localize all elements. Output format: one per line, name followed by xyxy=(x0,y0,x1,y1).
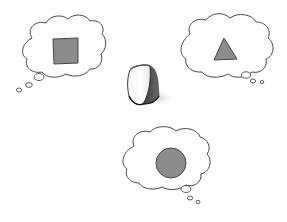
thought-dot-small xyxy=(196,200,200,203)
thought-dot-large xyxy=(181,186,191,193)
square-shape xyxy=(53,38,78,64)
circle-shape xyxy=(156,148,186,178)
thought-dot-medium xyxy=(26,83,33,88)
thought-dot-large xyxy=(34,74,44,81)
curved-wedge-object xyxy=(128,65,174,107)
thought-bubble-circle xyxy=(123,127,210,204)
thought-dot-medium xyxy=(187,196,192,200)
thought-dot-large xyxy=(242,72,251,78)
thought-dot-small xyxy=(260,81,264,84)
thought-dot-medium xyxy=(250,79,255,83)
thought-bubble-square xyxy=(16,15,105,92)
thought-bubble-triangle xyxy=(181,14,273,84)
thought-dot-small xyxy=(16,88,21,92)
illustration xyxy=(0,0,287,222)
